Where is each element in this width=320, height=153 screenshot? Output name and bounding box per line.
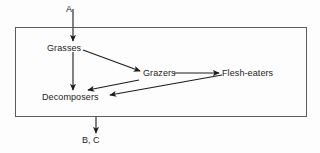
output-label-bc: B, C bbox=[82, 136, 100, 145]
node-label-grazers: Grazers bbox=[143, 69, 176, 78]
input-label-a: A bbox=[66, 5, 72, 14]
node-label-decomposers: Decomposers bbox=[42, 93, 99, 102]
node-label-flesh-eaters: Flesh-eaters bbox=[222, 69, 273, 78]
node-label-grasses: Grasses bbox=[47, 44, 81, 53]
diagram-canvas: A Grasses Grazers Flesh-eaters Decompose… bbox=[0, 0, 320, 153]
